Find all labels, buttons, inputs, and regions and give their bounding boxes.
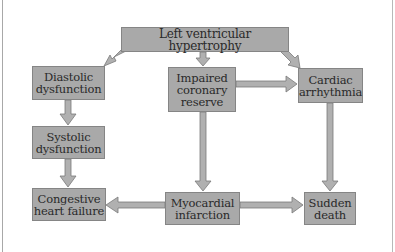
node-label-line1: Impaired bbox=[176, 72, 227, 84]
node-congestive-heart-failure: Congestive heart failure bbox=[32, 188, 106, 221]
arrow-impaired-to-arrhythmia bbox=[236, 76, 297, 92]
node-impaired-coronary-reserve: Impaired coronary reserve bbox=[168, 67, 236, 112]
arrow-lvh-to-impaired bbox=[196, 52, 210, 66]
node-label-line1: Systolic bbox=[46, 131, 90, 143]
node-label: Left ventricular hypertrophy bbox=[122, 28, 288, 52]
node-systolic-dysfunction: Systolic dysfunction bbox=[32, 126, 105, 159]
arrow-diastolic-to-systolic bbox=[60, 100, 76, 125]
node-label-line2: dysfunction bbox=[36, 83, 102, 95]
node-label-line2: coronary bbox=[177, 84, 227, 96]
node-label-line1: Cardiac bbox=[308, 74, 352, 86]
node-label-line2: arrhythmia bbox=[299, 86, 362, 98]
node-sudden-death: Sudden death bbox=[304, 192, 356, 225]
node-label-line1: Sudden bbox=[308, 197, 351, 209]
arrow-mi-to-sudden bbox=[240, 197, 303, 213]
node-label-line2: dysfunction bbox=[36, 143, 102, 155]
node-label-line2: heart failure bbox=[34, 205, 104, 217]
node-cardiac-arrhythmia: Cardiac arrhythmia bbox=[298, 68, 363, 103]
node-label-line3: reserve bbox=[181, 96, 223, 108]
node-label-line2: infarction bbox=[175, 209, 230, 221]
arrow-systolic-to-chf bbox=[60, 159, 76, 187]
arrow-mi-to-chf bbox=[106, 197, 165, 213]
node-label-line1: Myocardial bbox=[171, 197, 235, 209]
node-myocardial-infarction: Myocardial infarction bbox=[165, 192, 240, 225]
node-left-ventricular-hypertrophy: Left ventricular hypertrophy bbox=[121, 27, 289, 52]
arrow-arrhythmia-to-sudden bbox=[322, 103, 338, 191]
arrow-impaired-to-mi bbox=[195, 112, 211, 191]
node-label-line1: Congestive bbox=[38, 193, 101, 205]
node-label-line2: death bbox=[314, 209, 346, 221]
node-diastolic-dysfunction: Diastolic dysfunction bbox=[32, 66, 105, 100]
